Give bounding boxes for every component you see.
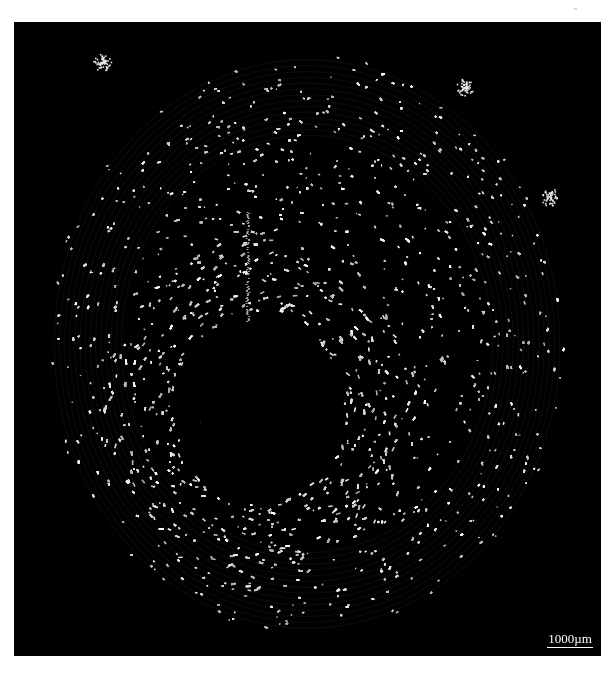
scale-bar: 1000µm xyxy=(547,632,593,648)
micrograph-panel: 1000µm xyxy=(14,22,601,656)
specimen-cross-section-image xyxy=(14,22,601,656)
stray-speck xyxy=(574,8,577,10)
scale-bar-line xyxy=(547,647,593,648)
scale-bar-label: 1000µm xyxy=(548,632,592,646)
